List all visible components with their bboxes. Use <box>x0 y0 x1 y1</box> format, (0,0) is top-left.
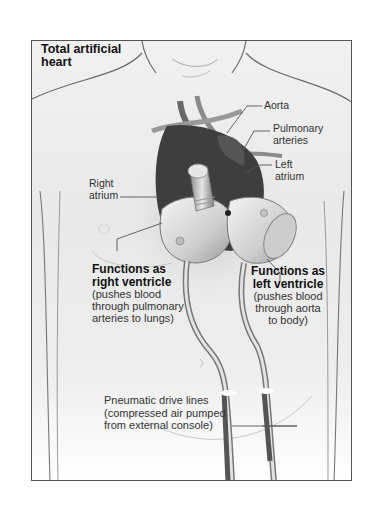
label-drive-lines: Pneumatic drive lines (compressed air pu… <box>104 394 226 432</box>
figure-title-line-1: Total artificial <box>41 42 121 56</box>
label-right-atrium-text-1: Right <box>89 177 114 189</box>
label-rv-desc-2: through pulmonary <box>92 300 184 312</box>
label-left-ventricle: Functions as left ventricle (pushes bloo… <box>240 265 336 326</box>
label-lv-desc-3: to body) <box>240 314 336 326</box>
label-left-atrium-text-2: atrium <box>275 170 304 182</box>
label-rv-desc-3: arteries to lungs) <box>92 312 184 324</box>
label-right-atrium: Right atrium <box>89 178 118 201</box>
label-rv-heading-2: right ventricle <box>92 275 171 289</box>
label-aorta: Aorta <box>264 100 289 112</box>
illustration-frame: Total artificial heart Aorta Pulmonary a… <box>31 40 352 481</box>
label-left-atrium: Left atrium <box>275 159 304 182</box>
label-rv-desc-1: (pushes blood <box>92 288 184 300</box>
label-lv-heading-2: left ventricle <box>253 277 324 291</box>
label-right-atrium-text-2: atrium <box>89 189 118 201</box>
label-drive-lines-1: Pneumatic drive lines <box>104 394 209 406</box>
label-lv-desc-1: (pushes blood <box>240 290 336 302</box>
label-drive-lines-3: from external console) <box>104 419 213 431</box>
label-pulmonary-arteries: Pulmonary arteries <box>273 123 323 146</box>
label-pulmonary-text-1: Pulmonary <box>273 122 323 134</box>
label-lv-desc-2: through aorta <box>240 302 336 314</box>
label-left-atrium-text-1: Left <box>275 158 293 170</box>
label-right-ventricle: Functions as right ventricle (pushes blo… <box>92 263 184 324</box>
label-pulmonary-text-2: arteries <box>273 134 308 146</box>
figure-title: Total artificial heart <box>41 43 121 69</box>
label-aorta-text: Aorta <box>264 99 289 111</box>
label-drive-lines-2: (compressed air pumped <box>104 407 226 419</box>
figure-title-line-2: heart <box>41 55 72 69</box>
